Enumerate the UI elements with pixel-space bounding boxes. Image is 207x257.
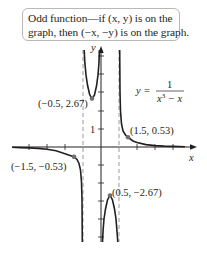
equation-numerator: 1: [167, 79, 172, 90]
y-axis-label: y: [90, 42, 96, 53]
function-curve: [12, 50, 185, 242]
equation-lhs: y =: [135, 85, 150, 96]
curve-branch-mid-right: [103, 195, 118, 242]
y-axis: [98, 46, 104, 242]
point-label-1.5-0.53: (1.5, 0.53): [130, 125, 174, 137]
x-axis-label: x: [188, 152, 194, 163]
point-neg0.5-2.67: [90, 96, 95, 101]
x-axis-arrow-icon: [190, 144, 197, 149]
point-label-neg0.5-2.67: (−0.5, 2.67): [38, 98, 88, 110]
equation-denominator: x3 − x: [156, 92, 183, 104]
point-neg1.5-neg0.53: [72, 154, 77, 159]
equation-label: y = 1 x3 − x: [135, 79, 184, 104]
point-label-0.5-neg2.67: (0.5, −2.67): [112, 187, 162, 199]
y-tick-label-1: 1: [90, 124, 95, 135]
point-label-neg1.5-neg0.53: (−1.5, −0.53): [11, 161, 67, 173]
function-graph: y x 1 (−0.5, 2.67) (1.5, 0.53) (−1.5, −0…: [0, 0, 207, 257]
curve-branch-mid-left: [84, 50, 99, 99]
